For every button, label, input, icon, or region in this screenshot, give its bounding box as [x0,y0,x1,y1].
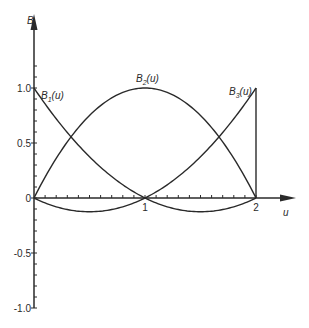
y-tick-label-0: 0 [25,193,31,204]
x-axis-label: u [283,207,289,218]
y-tick-label-neg1: -1.0 [14,303,32,314]
x-tick-label-2: 2 [253,202,259,213]
label-b2: B2(u) [136,73,159,86]
curve-b3 [34,88,256,212]
y-tick-label-neg0.5: -0.5 [14,248,32,259]
y-tick-label-0.5: 0.5 [17,138,31,149]
x-axis-arrow-icon [280,195,296,202]
curve-b1 [34,88,256,212]
x-tick-label-1: 1 [142,202,148,213]
label-b1: B1(u) [41,90,64,103]
y-axis-label: B [27,15,34,26]
label-b3: B3(u) [229,86,252,99]
basis-function-chart: B u 1.0 0.5 0 -0.5 -1.0 1 2 B1(u) B2(u) … [0,0,309,328]
curve-b2 [34,88,256,198]
y-tick-label-1: 1.0 [17,83,31,94]
